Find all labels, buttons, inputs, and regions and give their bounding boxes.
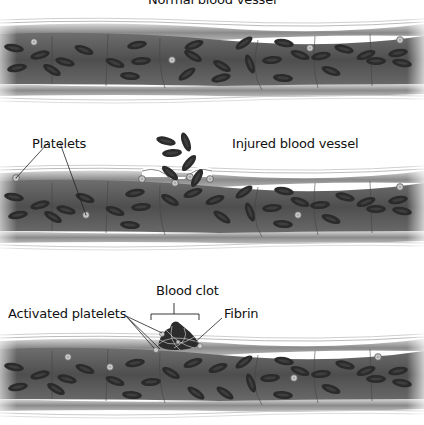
injured-vessel-title: Injured blood vessel [232, 136, 358, 151]
blood-clot-label: Blood clot [156, 283, 219, 298]
injured-vessel [0, 165, 424, 253]
activated-platelets-label: Activated platelets [8, 306, 126, 321]
clot-vessel [0, 333, 424, 421]
fibrin-label: Fibrin [224, 306, 258, 321]
blood-clot-bracket [151, 303, 199, 320]
platelets-label: Platelets [32, 136, 86, 151]
normal-vessel [0, 18, 424, 106]
blood-vessel-diagram [0, 0, 424, 425]
normal-vessel-title: Normal blood vessel [148, 0, 276, 7]
